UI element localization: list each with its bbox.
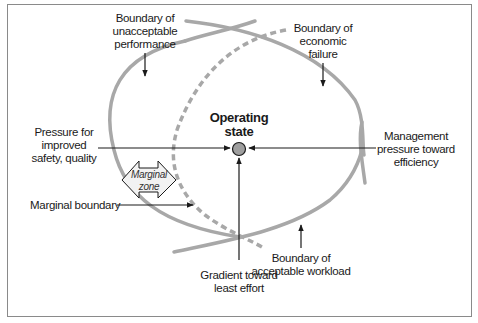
marginal-boundary-label: Marginal boundary xyxy=(30,199,121,211)
acceptable-workload-label-line1: Boundary of xyxy=(272,252,332,264)
operating-state-marker xyxy=(233,143,246,156)
management-pressure-label-line1: Management xyxy=(384,130,449,142)
economic-failure-label-line3: failure xyxy=(308,48,337,60)
least-effort-label-line2: least effort xyxy=(214,282,265,294)
unacceptable-performance-label-line1: Boundary of xyxy=(116,12,176,24)
safety-pressure-label-line1: Pressure for xyxy=(34,126,94,138)
safety-pressure-label-line2: improved xyxy=(42,139,87,151)
marginal-zone-label-line2: zone xyxy=(138,181,160,192)
economic-failure-label-line2: economic xyxy=(300,35,347,47)
economic-failure-label-line1: Boundary of xyxy=(294,22,354,34)
marginal-zone-label-line1: Marginal xyxy=(131,169,168,180)
boundary-acceptable-workload-curve xyxy=(174,150,362,252)
operating-state-label-line2: state xyxy=(225,124,254,139)
unacceptable-performance-label-line2: unacceptable xyxy=(113,25,178,37)
unacceptable-performance-label-line3: performance xyxy=(114,38,175,50)
acceptable-workload-label-line2: acceptable workload xyxy=(251,265,350,277)
operating-state-label-line1: Operating xyxy=(210,110,269,125)
management-pressure-label-line3: efficiency xyxy=(394,156,439,168)
management-pressure-label-line2: pressure toward xyxy=(377,143,455,155)
safety-boundary-diagram: Operating state Pressure for improved sa… xyxy=(0,0,478,323)
safety-pressure-label-line3: safety, quality xyxy=(32,152,98,164)
